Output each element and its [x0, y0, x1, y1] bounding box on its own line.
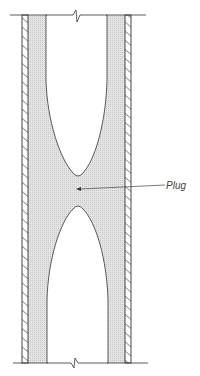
- left-pipe-wall: [22, 15, 28, 363]
- pipe-plug-diagram: Plug: [0, 0, 200, 376]
- plug-label: Plug: [166, 180, 186, 191]
- right-pipe-wall: [125, 15, 131, 363]
